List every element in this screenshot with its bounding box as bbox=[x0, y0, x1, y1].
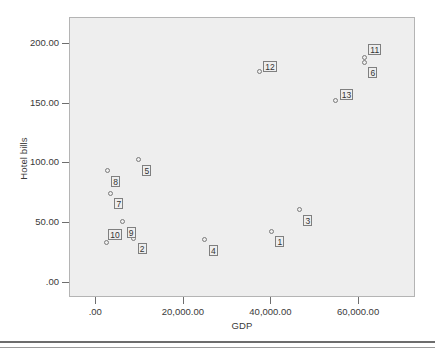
data-point-marker[interactable] bbox=[136, 157, 141, 162]
plot-area: 12345678910111213 bbox=[69, 17, 415, 297]
x-axis-tick-label: 60,000.00 bbox=[313, 306, 403, 317]
y-axis-tick bbox=[62, 43, 69, 44]
data-point-marker[interactable] bbox=[269, 229, 274, 234]
data-point-label[interactable]: 9 bbox=[127, 227, 136, 238]
data-point-marker[interactable] bbox=[257, 69, 262, 74]
data-point-label[interactable]: 3 bbox=[303, 215, 312, 226]
data-point-marker[interactable] bbox=[108, 191, 113, 196]
y-axis-tick-label: .00 bbox=[0, 276, 59, 287]
data-point-label[interactable]: 8 bbox=[111, 176, 120, 187]
x-axis-tick bbox=[270, 297, 271, 304]
data-point-label[interactable]: 2 bbox=[138, 243, 147, 254]
data-point-marker[interactable] bbox=[105, 168, 110, 173]
data-point-label[interactable]: 11 bbox=[368, 44, 381, 55]
x-axis-title: GDP bbox=[69, 320, 415, 331]
data-point-marker[interactable] bbox=[120, 219, 125, 224]
data-point-marker[interactable] bbox=[202, 237, 207, 242]
y-axis-tick bbox=[62, 282, 69, 283]
x-axis-tick bbox=[95, 297, 96, 304]
bottom-divider-thick bbox=[0, 341, 435, 343]
data-point-marker[interactable] bbox=[297, 207, 302, 212]
data-point-marker[interactable] bbox=[104, 240, 109, 245]
data-point-label[interactable]: 12 bbox=[263, 61, 276, 72]
scatter-chart-figure: Hotel bills 12345678910111213 GDP .0050.… bbox=[0, 0, 435, 350]
data-point-label[interactable]: 6 bbox=[368, 67, 377, 78]
data-point-marker[interactable] bbox=[362, 60, 367, 65]
data-point-label[interactable]: 13 bbox=[340, 89, 353, 100]
data-point-label[interactable]: 10 bbox=[108, 229, 121, 240]
x-axis-tick bbox=[358, 297, 359, 304]
data-point-label[interactable]: 5 bbox=[142, 165, 151, 176]
y-axis-tick-label: 50.00 bbox=[0, 216, 59, 227]
y-axis-tick-label: 200.00 bbox=[0, 37, 59, 48]
y-axis-tick bbox=[62, 103, 69, 104]
data-point-marker[interactable] bbox=[362, 55, 367, 60]
data-point-label[interactable]: 4 bbox=[209, 245, 218, 256]
bottom-divider-thin bbox=[0, 347, 435, 348]
y-axis-tick bbox=[62, 222, 69, 223]
x-axis-tick-label: 40,000.00 bbox=[225, 306, 315, 317]
x-axis-tick-label: .00 bbox=[50, 306, 140, 317]
y-axis-tick bbox=[62, 162, 69, 163]
data-point-marker[interactable] bbox=[333, 98, 338, 103]
x-axis-tick bbox=[183, 297, 184, 304]
data-point-label[interactable]: 7 bbox=[114, 198, 123, 209]
data-point-label[interactable]: 1 bbox=[275, 236, 284, 247]
x-axis-tick-label: 20,000.00 bbox=[138, 306, 228, 317]
y-axis-tick-label: 150.00 bbox=[0, 97, 59, 108]
y-axis-tick-label: 100.00 bbox=[0, 156, 59, 167]
